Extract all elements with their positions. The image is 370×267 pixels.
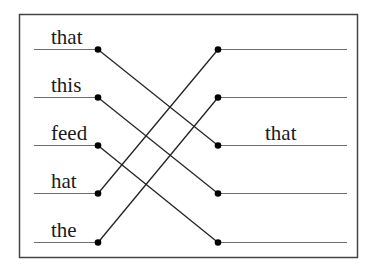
right-dot-2[interactable] xyxy=(215,94,222,101)
left-word-3: feed xyxy=(51,121,88,145)
left-dot-4[interactable] xyxy=(95,190,102,197)
right-dot-4[interactable] xyxy=(215,190,222,197)
right-dot-3[interactable] xyxy=(215,142,222,149)
left-word-4: hat xyxy=(51,169,77,193)
right-labels: that xyxy=(265,121,297,145)
left-dot-5[interactable] xyxy=(95,239,102,246)
left-word-5: the xyxy=(51,218,77,242)
left-dot-3[interactable] xyxy=(95,142,102,149)
left-word-2: this xyxy=(51,73,81,97)
right-dot-1[interactable] xyxy=(215,46,222,53)
right-dot-5[interactable] xyxy=(215,239,222,246)
matching-diagram: that this feed hat the that xyxy=(0,0,370,267)
left-word-1: that xyxy=(51,25,83,49)
left-dot-2[interactable] xyxy=(95,94,102,101)
right-word-3: that xyxy=(265,121,297,145)
left-dot-1[interactable] xyxy=(95,46,102,53)
